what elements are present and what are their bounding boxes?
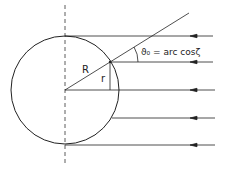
angle-arc <box>134 47 138 62</box>
impact-parameter-label: r <box>101 73 106 84</box>
arrow-left-icon <box>190 60 197 63</box>
arrow-left-icon <box>190 88 197 91</box>
radius-label: R <box>82 64 89 75</box>
angle-label: ϑ₀ = arc cosζ <box>141 47 200 57</box>
diagram-canvas: R r ϑ₀ = arc cosζ <box>0 0 227 170</box>
arrow-left-icon <box>190 34 197 37</box>
impact-point <box>109 61 111 63</box>
arrow-left-icon <box>190 116 197 119</box>
arrow-left-icon <box>190 143 197 146</box>
